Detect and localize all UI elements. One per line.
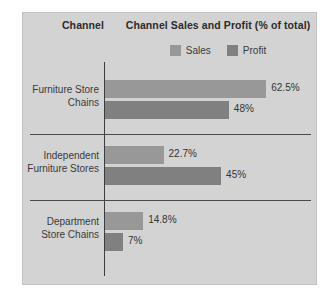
legend-item-profit: Profit <box>227 45 266 56</box>
bar-profit <box>105 167 221 185</box>
category-label-line: Furniture Store <box>23 83 99 96</box>
bar-group-independent-furniture-stores: Independent Furniture Stores 22.7% 45% <box>23 134 316 200</box>
legend-label-sales: Sales <box>186 45 211 56</box>
bar-sales <box>105 80 266 98</box>
category-label: Independent Furniture Stores <box>23 149 99 175</box>
legend-swatch-sales-icon <box>170 45 181 56</box>
bar-value-label: 45% <box>226 169 246 180</box>
bar-value-label: 7% <box>128 235 142 246</box>
category-label: Furniture Store Chains <box>23 83 99 109</box>
bar-value-label: 62.5% <box>271 82 299 93</box>
chart-legend: Sales Profit <box>120 43 316 57</box>
category-label: Department Store Chains <box>23 215 99 241</box>
bar-profit <box>105 233 123 251</box>
bar-value-label: 22.7% <box>169 148 197 159</box>
legend-item-sales: Sales <box>170 45 211 56</box>
category-label-line: Furniture Stores <box>23 162 99 175</box>
chart-panel: Channel Channel Sales and Profit (% of t… <box>22 12 317 285</box>
category-label-line: Store Chains <box>23 228 99 241</box>
bar-value-label: 48% <box>234 103 254 114</box>
bar-sales <box>105 146 164 164</box>
bar-group-furniture-store-chains: Furniture Store Chains 62.5% 48% <box>23 68 316 134</box>
category-label-line: Department <box>23 215 99 228</box>
column-header-metric: Channel Sales and Profit (% of total) <box>120 19 316 31</box>
bar-sales <box>105 212 143 230</box>
legend-label-profit: Profit <box>243 45 266 56</box>
category-label-line: Chains <box>23 96 99 109</box>
bar-value-label: 14.8% <box>148 214 176 225</box>
column-header-row: Channel Channel Sales and Profit (% of t… <box>23 19 316 37</box>
bar-group-department-store-chains: Department Store Chains 14.8% 7% <box>23 200 316 266</box>
column-header-channel: Channel <box>42 19 124 31</box>
bar-profit <box>105 101 229 119</box>
plot-area: Furniture Store Chains 62.5% 48% Indepen… <box>23 62 316 285</box>
legend-swatch-profit-icon <box>227 45 238 56</box>
category-label-line: Independent <box>23 149 99 162</box>
